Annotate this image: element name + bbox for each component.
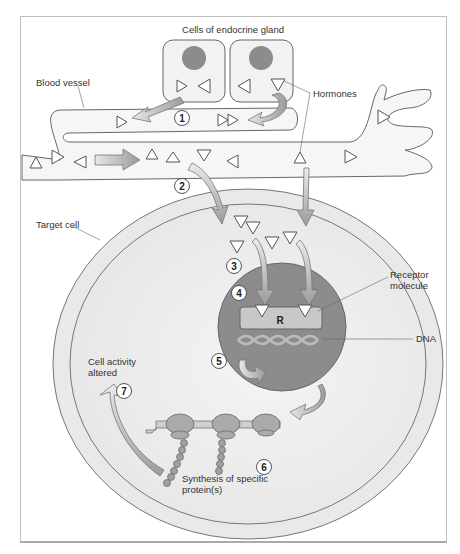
target-cell-label: Target cell [36, 219, 79, 230]
cell-activity-label-line1: Cell activity [88, 356, 136, 367]
endocrine-gland-cells [163, 40, 293, 102]
receptor-label-line1: Receptor [390, 269, 429, 280]
synthesis-label-line2: protein(s) [182, 484, 222, 495]
step-4: 4 [232, 286, 247, 301]
svg-text:3: 3 [231, 261, 237, 272]
step-2: 2 [175, 179, 190, 194]
svg-text:5: 5 [216, 356, 222, 367]
synthesis-label-line1: Synthesis of specific [182, 473, 268, 484]
title-label: Cells of endocrine gland [182, 24, 284, 35]
step-5: 5 [212, 354, 227, 369]
receptor-symbol: R [276, 315, 284, 326]
receptor-label-line2: molecule [390, 280, 428, 291]
blood-vessel-label: Blood vessel [36, 77, 90, 88]
svg-text:2: 2 [179, 181, 185, 192]
svg-text:7: 7 [121, 386, 127, 397]
gland-nucleus-2 [249, 46, 273, 70]
hormone-action-diagram: R 1 2 3 4 5 6 7 [0, 0, 460, 554]
svg-text:4: 4 [236, 288, 242, 299]
cell-activity-label-line2: altered [88, 367, 117, 378]
step-3: 3 [227, 259, 242, 274]
hormones-label: Hormones [313, 88, 357, 99]
dna-label: DNA [416, 333, 437, 344]
svg-text:1: 1 [179, 113, 185, 124]
step-1: 1 [175, 111, 190, 126]
step-7: 7 [117, 384, 132, 399]
gland-nucleus-1 [182, 46, 206, 70]
svg-text:6: 6 [261, 462, 267, 473]
